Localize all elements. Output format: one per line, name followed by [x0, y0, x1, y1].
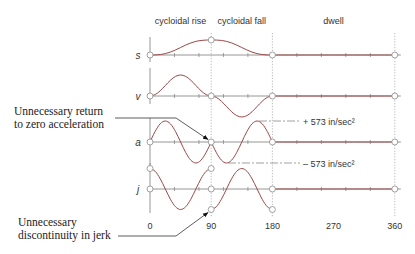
- j-boundary-marker: [147, 186, 153, 192]
- annotation-accel-zero-line2: to zero acceleration: [14, 118, 104, 130]
- s-boundary-marker: [147, 52, 153, 58]
- annotation-jerk-arrow: [118, 213, 208, 237]
- x-tick-label: 180: [265, 221, 280, 231]
- x-tick-label: 360: [387, 221, 402, 231]
- svaj-diagram: cycloidal risecycloidal falldwellsvaj090…: [0, 0, 415, 254]
- v-curve-cycloidal-fall: [211, 96, 272, 117]
- x-tick-label: 270: [326, 221, 341, 231]
- segment-label-dwell: dwell: [323, 16, 344, 26]
- segment-label-cycloidal-rise: cycloidal rise: [155, 16, 207, 26]
- v-axis-label: v: [136, 91, 142, 102]
- j-boundary-marker: [269, 186, 275, 192]
- v-boundary-marker: [269, 93, 275, 99]
- v-curve-cycloidal-rise: [150, 75, 211, 96]
- j-boundary-marker: [147, 166, 153, 172]
- j-axis-label: j: [135, 184, 140, 195]
- a-boundary-marker: [392, 139, 398, 145]
- j-boundary-marker: [269, 207, 275, 213]
- s-curve-cycloidal-rise: [150, 40, 211, 55]
- annotation-jerk-line1: Unnecessary: [18, 216, 77, 229]
- annotation-accel-min: – 573 in/sec²: [228, 159, 355, 169]
- j-boundary-marker: [208, 166, 214, 172]
- s-boundary-marker: [392, 52, 398, 58]
- v-boundary-marker: [208, 93, 214, 99]
- s-curve-cycloidal-fall: [211, 40, 272, 55]
- a-boundary-marker: [208, 139, 214, 145]
- v-boundary-marker: [147, 93, 153, 99]
- annotation-accel-zero-line1: Unnecessary return: [14, 105, 103, 118]
- annotation-accel-zero-arrow: [115, 118, 208, 140]
- segment-label-cycloidal-fall: cycloidal fall: [218, 16, 267, 26]
- j-boundary-marker: [208, 186, 214, 192]
- annotation-accel-zero: Unnecessary return to zero acceleration: [14, 105, 208, 140]
- j-boundary-marker: [392, 186, 398, 192]
- j-boundary-marker: [208, 207, 214, 213]
- x-tick-label: 0: [147, 221, 152, 231]
- s-boundary-marker: [208, 37, 214, 43]
- chart-text: cycloidal risecycloidal falldwellsvaj090…: [135, 16, 402, 231]
- a-axis-label: a: [135, 137, 141, 148]
- annotation-jerk-discontinuity: Unnecessary discontinuity in jerk: [18, 213, 208, 243]
- x-tick-label: 90: [206, 221, 216, 231]
- a-boundary-marker: [269, 139, 275, 145]
- axes: [150, 37, 401, 213]
- a-boundary-marker: [147, 139, 153, 145]
- boundary-markers: [147, 37, 398, 213]
- annotation-jerk-line2: discontinuity in jerk: [18, 229, 111, 242]
- annotation-accel-max: + 573 in/sec²: [259, 117, 355, 127]
- s-axis-label: s: [136, 50, 141, 61]
- svaj-chart: cycloidal risecycloidal falldwellsvaj090…: [0, 0, 415, 254]
- s-boundary-marker: [269, 52, 275, 58]
- accel-max-label: + 573 in/sec²: [303, 117, 355, 127]
- accel-min-label: – 573 in/sec²: [303, 159, 355, 169]
- v-boundary-marker: [392, 93, 398, 99]
